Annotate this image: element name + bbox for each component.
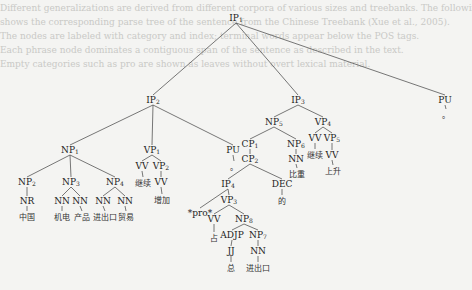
node-index: 5 xyxy=(336,136,340,143)
tree-node-vp1: VP1 xyxy=(144,145,160,155)
tree-node-nn-d: NN xyxy=(117,196,133,206)
tree-node-ip2: IP2 xyxy=(146,95,159,105)
tree-edge xyxy=(70,155,115,177)
tree-leaf-word: 。 xyxy=(230,161,238,172)
tree-node-vp3: VP3 xyxy=(221,195,237,205)
tree-edge xyxy=(214,205,229,214)
node-index: 4 xyxy=(120,180,124,187)
node-label: VP xyxy=(221,195,234,205)
node-label: NP xyxy=(235,214,249,224)
tree-node-ip1: IP1 xyxy=(229,13,242,23)
tree-node-cp1: CP1 xyxy=(242,139,259,149)
node-label: DEC xyxy=(272,179,293,189)
node-index: 2 xyxy=(255,157,259,164)
node-index: 4 xyxy=(231,182,235,189)
tree-edge xyxy=(274,105,298,117)
tree-node-np4: NP4 xyxy=(106,177,124,187)
tree-node-np3: NP3 xyxy=(62,177,80,187)
node-label: IP xyxy=(291,95,301,105)
tree-edge xyxy=(250,127,274,139)
node-label: IP xyxy=(229,13,239,23)
node-label: VV xyxy=(155,177,168,187)
tree-node-adjp: ADJP xyxy=(220,230,243,240)
node-index: 1 xyxy=(156,148,160,155)
node-label: IP xyxy=(221,179,231,189)
tree-node-vv-jixu2: VV xyxy=(309,133,322,143)
tree-node-nr: NR xyxy=(20,196,35,206)
tree-edge xyxy=(70,155,71,177)
tree-edge xyxy=(274,127,296,139)
node-label: CP xyxy=(242,139,255,149)
node-label: VP xyxy=(144,145,157,155)
node-label: CP xyxy=(242,154,255,164)
tree-node-vp2: VP2 xyxy=(153,161,169,171)
tree-edge xyxy=(153,105,233,145)
tree-node-pu-mid: PU xyxy=(226,145,239,155)
node-label: ADJP xyxy=(220,230,243,240)
tree-node-dec: DEC xyxy=(272,179,293,189)
tree-node-ip3: IP3 xyxy=(291,95,304,105)
tree-node-vv-shangsheng: VV xyxy=(326,150,339,160)
tree-leaf-word: 中国 xyxy=(19,211,35,222)
node-index: 3 xyxy=(301,98,305,105)
tree-node-vv-zhan: VV xyxy=(208,214,221,224)
tree-edge xyxy=(153,23,236,95)
tree-node-nn-bizhong: NN xyxy=(288,154,304,164)
node-label: JJ xyxy=(227,246,234,256)
syntax-tree-diagram: Different generalizations are derived fr… xyxy=(0,0,472,290)
tree-leaf-word: 占 xyxy=(210,232,218,243)
node-label: NN xyxy=(72,196,88,206)
node-index: 1 xyxy=(239,16,243,23)
node-index: 8 xyxy=(249,217,253,224)
node-label: NN xyxy=(250,246,266,256)
tree-node-pu-top: PU xyxy=(438,95,451,105)
node-label: NP xyxy=(287,139,301,149)
tree-edge xyxy=(103,187,115,196)
tree-node-np8: NP8 xyxy=(235,214,253,224)
node-label: VV xyxy=(326,150,339,160)
tree-node-jj: JJ xyxy=(227,246,234,256)
tree-leaf-word: 进出口 xyxy=(246,262,270,273)
node-label: NR xyxy=(20,196,35,206)
tree-node-nn-jinchukou: NN xyxy=(250,246,266,256)
tree-node-vp4: VP4 xyxy=(315,117,331,127)
tree-leaf-word: 总 xyxy=(227,262,235,273)
node-label: VV xyxy=(208,214,221,224)
tree-node-nn-a: NN xyxy=(54,196,70,206)
tree-edge xyxy=(152,105,153,145)
node-label: NP xyxy=(249,230,263,240)
node-label: NP xyxy=(265,117,279,127)
tree-edge xyxy=(70,105,153,145)
tree-edge xyxy=(27,155,70,177)
tree-leaf-word: 贸易 xyxy=(118,211,134,222)
tree-edge xyxy=(62,187,71,196)
tree-edge xyxy=(115,187,125,196)
node-label: VP xyxy=(315,117,328,127)
node-index: 7 xyxy=(263,233,267,240)
node-label: PU xyxy=(226,145,239,155)
tree-node-vv-zengjia: VV xyxy=(155,177,168,187)
tree-node-np6: NP6 xyxy=(287,139,305,149)
node-index: 4 xyxy=(327,120,331,127)
tree-edge xyxy=(229,205,244,214)
tree-leaf-word: 。 xyxy=(442,109,450,120)
node-index: 2 xyxy=(165,164,169,171)
tree-leaf-word: 的 xyxy=(278,195,286,206)
tree-leaf-word: 继续 xyxy=(307,149,323,160)
tree-leaf-word: 继续 xyxy=(135,177,151,188)
node-label: NN xyxy=(54,196,70,206)
node-index: 1 xyxy=(75,148,79,155)
tree-leaf-word: 产品 xyxy=(74,211,90,222)
node-label: NP xyxy=(61,145,75,155)
tree-node-nn-b: NN xyxy=(72,196,88,206)
tree-node-np7: NP7 xyxy=(249,230,267,240)
node-index: 2 xyxy=(32,180,36,187)
node-label: VV xyxy=(136,161,149,171)
node-label: VP xyxy=(324,133,337,143)
node-label: PU xyxy=(438,95,451,105)
tree-edge xyxy=(298,105,323,117)
node-label: VV xyxy=(309,133,322,143)
tree-edge xyxy=(250,164,282,179)
tree-edge xyxy=(71,187,80,196)
tree-leaf-word: 上升 xyxy=(325,165,341,176)
